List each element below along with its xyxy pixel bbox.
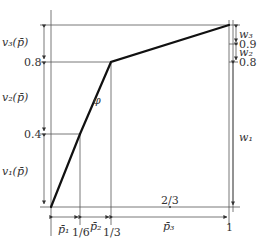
diagram-canvas: φ v₃(p̄) v₂(p̄) v₁(p̄) 0.8 0.4 w₃ 0.9 w₂… xyxy=(0,0,267,246)
v2-label: v₂(p̄) xyxy=(2,91,28,104)
v3-label: v₃(p̄) xyxy=(2,36,28,49)
right-tick-0.8: 0.8 xyxy=(239,56,257,69)
two-thirds-label: 2/3 xyxy=(161,194,179,207)
y-tick-0.8: 0.8 xyxy=(24,56,42,69)
phi-curve xyxy=(51,25,229,207)
v1-label: v₁(p̄) xyxy=(2,165,28,178)
one-sixth-label: 1/6 xyxy=(72,226,90,239)
one-third-label: 1/3 xyxy=(103,226,121,239)
p3-label: p̄₃ xyxy=(163,220,174,233)
w1-label: w₁ xyxy=(239,131,253,144)
phi-label: φ xyxy=(93,94,101,107)
p1-label: p̄₁ xyxy=(58,223,69,236)
diagram: φ v₃(p̄) v₂(p̄) v₁(p̄) 0.8 0.4 w₃ 0.9 w₂… xyxy=(0,0,267,246)
one-label: 1 xyxy=(226,221,233,234)
p2-label: p̄₂ xyxy=(90,220,101,233)
y-tick-0.4: 0.4 xyxy=(24,128,42,141)
